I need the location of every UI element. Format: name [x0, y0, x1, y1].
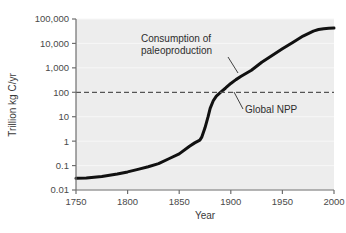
y-tick-label: 100 [53, 87, 69, 98]
x-tick-label: 1900 [220, 196, 241, 207]
chart-figure: 0.010.11101001,00010,000100,000 17501800… [0, 0, 346, 233]
x-tick-label: 1950 [272, 196, 293, 207]
y-tick-label: 1,000 [45, 62, 69, 73]
y-tick-label: 100,000 [35, 13, 69, 24]
annotation-global-npp-label: Global NPP [245, 104, 298, 115]
annotation-consumption-line2: paleoproduction [141, 45, 212, 56]
consumption-of-paleoproduction-chart: 0.010.11101001,00010,000100,000 17501800… [0, 0, 346, 233]
x-axis-title: Year [195, 210, 216, 221]
y-tick-label: 0.01 [51, 184, 70, 195]
y-tick-label: 0.1 [56, 160, 69, 171]
y-axis-title: Trillion kg C/yr [7, 73, 18, 137]
y-tick-label: 10 [58, 111, 69, 122]
y-tick-label: 1 [64, 136, 69, 147]
x-axis: 175018001850190019502000 [65, 190, 344, 207]
y-tick-label: 10,000 [40, 38, 69, 49]
x-tick-label: 1800 [117, 196, 138, 207]
y-axis: 0.010.11101001,00010,000100,000 [35, 13, 76, 195]
annotation-consumption-line1: Consumption of [141, 33, 211, 44]
x-tick-label: 2000 [323, 196, 344, 207]
x-tick-label: 1850 [169, 196, 190, 207]
x-tick-label: 1750 [65, 196, 86, 207]
